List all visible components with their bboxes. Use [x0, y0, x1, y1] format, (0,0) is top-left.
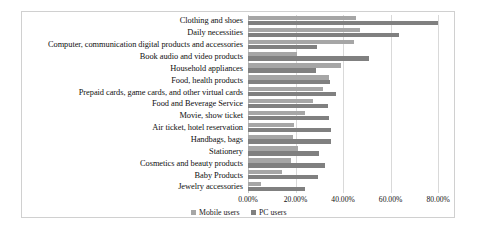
chart-row: Computer, communication digital products… — [22, 39, 456, 51]
bar-pc-users — [248, 68, 316, 72]
chart-container: Clothing and shoesDaily necessitiesCompu… — [21, 11, 455, 218]
bar-mobile-users — [248, 182, 261, 186]
chart-row: Jewelry accessories — [22, 181, 456, 193]
bar-mobile-users — [248, 135, 293, 139]
bar-mobile-users — [248, 87, 323, 91]
category-label: Food and Beverage Service — [22, 99, 248, 108]
category-label: Food, health products — [22, 76, 248, 85]
bar-pc-users — [248, 139, 331, 143]
category-label: Book audio and video products — [22, 52, 248, 61]
chart-row: Prepaid cards, game cards, and other vir… — [22, 86, 456, 98]
category-label: Cosmetics and beauty products — [22, 159, 248, 168]
bar-pc-users — [248, 128, 331, 132]
chart-row: Household appliances — [22, 62, 456, 74]
x-tick-label: 80.00% — [426, 195, 449, 205]
bar-group — [248, 62, 450, 74]
category-label: Air ticket, hotel reservation — [22, 123, 248, 132]
x-tick-label: 60.00% — [379, 195, 402, 205]
bar-mobile-users — [248, 99, 313, 103]
pc-swatch — [251, 210, 256, 215]
bar-pc-users — [248, 92, 336, 96]
bar-group — [248, 39, 450, 51]
bar-group — [248, 122, 450, 134]
bar-mobile-users — [248, 170, 282, 174]
chart-row: Food and Beverage Service — [22, 98, 456, 110]
x-axis-tick-labels: 0.00%20.00%40.00%60.00%80.00% — [248, 195, 450, 207]
bar-pc-users — [248, 80, 330, 84]
x-tick-label: 0.00% — [238, 195, 258, 205]
bar-pc-users — [248, 151, 319, 155]
mobile-swatch — [191, 210, 196, 215]
bar-group — [248, 134, 450, 146]
category-label: Handbags, bags — [22, 135, 248, 144]
chart-row: Baby Products — [22, 169, 456, 181]
x-tick-label: 20.00% — [284, 195, 307, 205]
bar-group — [248, 27, 450, 39]
bar-mobile-users — [248, 63, 341, 67]
bar-pc-users — [248, 45, 317, 49]
bar-mobile-users — [248, 28, 360, 32]
bar-pc-users — [248, 56, 369, 60]
bar-pc-users — [248, 21, 438, 25]
chart-row: Movie, show ticket — [22, 110, 456, 122]
bar-group — [248, 74, 450, 86]
bar-rows: Clothing and shoesDaily necessitiesCompu… — [22, 15, 456, 193]
legend-item[interactable]: Mobile users — [191, 208, 239, 217]
bar-group — [248, 98, 450, 110]
bar-mobile-users — [248, 16, 356, 20]
x-tick-label: 40.00% — [331, 195, 354, 205]
bar-pc-users — [248, 163, 325, 167]
legend-item[interactable]: PC users — [251, 208, 286, 217]
category-label: Computer, communication digital products… — [22, 40, 248, 49]
bar-group — [248, 110, 450, 122]
chart-legend: Mobile usersPC users — [22, 208, 456, 217]
bar-group — [248, 15, 450, 27]
bar-mobile-users — [248, 146, 298, 150]
bar-mobile-users — [248, 40, 354, 44]
bar-pc-users — [248, 187, 305, 191]
chart-row: Book audio and video products — [22, 51, 456, 63]
bar-pc-users — [248, 175, 318, 179]
chart-row: Clothing and shoes — [22, 15, 456, 27]
bar-mobile-users — [248, 75, 329, 79]
bar-pc-users — [248, 116, 329, 120]
chart-row: Food, health products — [22, 74, 456, 86]
category-label: Prepaid cards, game cards, and other vir… — [22, 88, 248, 97]
bar-mobile-users — [248, 52, 297, 56]
bar-group — [248, 157, 450, 169]
bar-mobile-users — [248, 158, 291, 162]
category-label: Baby Products — [22, 171, 248, 180]
category-label: Movie, show ticket — [22, 111, 248, 120]
plot-area: Clothing and shoesDaily necessitiesCompu… — [22, 12, 454, 217]
bar-mobile-users — [248, 123, 294, 127]
chart-row: Cosmetics and beauty products — [22, 157, 456, 169]
category-label: Daily necessities — [22, 28, 248, 37]
bar-mobile-users — [248, 111, 305, 115]
legend-label: PC users — [259, 208, 287, 217]
category-label: Jewelry accessories — [22, 182, 248, 191]
chart-row: Handbags, bags — [22, 134, 456, 146]
bar-pc-users — [248, 33, 399, 37]
category-label: Household appliances — [22, 64, 248, 73]
bar-group — [248, 169, 450, 181]
chart-row: Air ticket, hotel reservation — [22, 122, 456, 134]
chart-row: Stationery — [22, 145, 456, 157]
category-label: Stationery — [22, 147, 248, 156]
legend-label: Mobile users — [199, 208, 240, 217]
bar-group — [248, 145, 450, 157]
bar-pc-users — [248, 104, 328, 108]
bar-group — [248, 51, 450, 63]
category-label: Clothing and shoes — [22, 16, 248, 25]
bar-group — [248, 181, 450, 193]
chart-row: Daily necessities — [22, 27, 456, 39]
bar-group — [248, 86, 450, 98]
